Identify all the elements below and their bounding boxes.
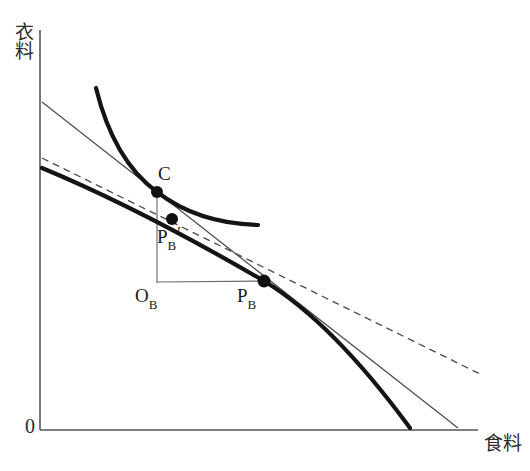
world-price-line [42,102,458,428]
domestic-price-line [42,158,480,374]
point-label-PB-prime-base: P [157,226,168,247]
point-marker-C [151,186,163,198]
figure-canvas: 衣料 食料 0 C PB′ OB PB [0,0,530,471]
origin-label: 0 [25,416,35,436]
point-label-PB-prime-subscript: B [168,238,177,253]
point-label-PB-prime: PB′ [157,227,180,250]
axes-group [40,30,478,430]
y-axis-label: 衣料 [13,22,34,60]
x-axis-label: 食料 [484,434,522,453]
production-possibility-frontier [42,168,410,428]
point-marker-PB [258,275,271,288]
point-label-OB-subscript: B [149,297,158,312]
point-label-OB-base: O [135,285,149,306]
point-label-PB: PB [237,286,256,309]
point-label-PB-base: P [237,285,248,306]
point-label-PB-subscript: B [248,297,257,312]
point-label-OB: OB [135,286,157,309]
point-label-PB-prime-mark: ′ [177,223,181,242]
point-label-C: C [158,164,171,183]
economics-diagram-svg [0,0,530,471]
production-horizontal-base [157,281,265,282]
